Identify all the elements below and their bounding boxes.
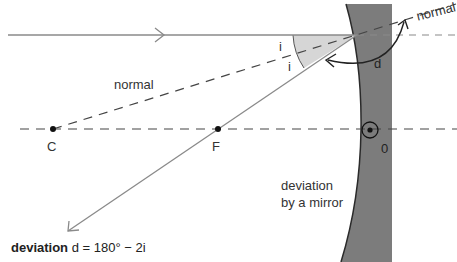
label-normal-left: normal bbox=[114, 78, 154, 91]
label-deviation-d: d bbox=[374, 57, 381, 70]
formula-term: deviation bbox=[11, 240, 68, 255]
point-f bbox=[215, 126, 221, 132]
concave-mirror bbox=[341, 4, 392, 262]
point-c bbox=[50, 126, 56, 132]
label-o: 0 bbox=[381, 142, 388, 155]
label-mirror-caption-1: deviation bbox=[281, 179, 333, 192]
label-c: C bbox=[47, 140, 56, 153]
label-f: F bbox=[212, 140, 220, 153]
point-o bbox=[367, 127, 372, 132]
label-angle-i-top: i bbox=[279, 40, 282, 53]
label-angle-i-bottom: i bbox=[288, 60, 291, 73]
diagram-canvas bbox=[0, 0, 457, 262]
deviation-formula: deviation d = 180° − 2i bbox=[11, 240, 146, 255]
formula-expression: d = 180° − 2i bbox=[72, 240, 146, 255]
label-mirror-caption-2: by a mirror bbox=[281, 196, 343, 209]
normal-line bbox=[53, 4, 456, 129]
